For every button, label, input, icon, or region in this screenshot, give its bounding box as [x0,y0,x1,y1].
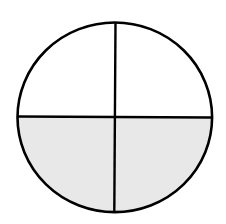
fraction-circle-diagram [0,0,226,224]
shaded-bottom-right-quarter [115,117,213,212]
horizontal-divider [18,117,213,118]
shaded-bottom-left-quarter [18,117,115,212]
